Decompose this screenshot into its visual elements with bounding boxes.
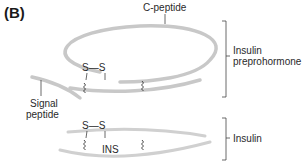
insulin-preprohormone-label: Insulin preprohormone bbox=[233, 45, 301, 67]
insulin-bracket bbox=[222, 118, 226, 160]
disulfide-bond-bottom: S—S bbox=[82, 120, 105, 131]
c-peptide-label: C-peptide bbox=[143, 2, 186, 13]
disulfide-bond-top: S—S bbox=[82, 62, 105, 73]
insulin-label: Insulin bbox=[233, 133, 262, 144]
ins-label: INS bbox=[102, 144, 119, 155]
insulin-b-chain bbox=[60, 142, 210, 156]
c-peptide-strand bbox=[65, 26, 216, 82]
insulin-processing-diagram: (B) C-peptide S—S S—S bbox=[0, 0, 304, 163]
preprohormone-bracket bbox=[222, 21, 226, 97]
signal-peptide-label: Signal peptide bbox=[29, 98, 59, 120]
